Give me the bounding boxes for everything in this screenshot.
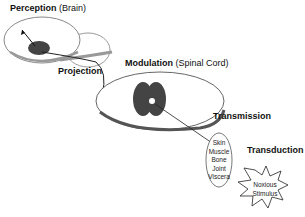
transmission-label: Transmission [213,112,271,121]
projection-label: Projection [58,67,102,76]
stimulus-line-1: Noxious [249,181,281,190]
stimulus-text: Noxious Stimulus [249,181,281,198]
spinal-cord-shape [96,72,224,130]
tissue-viscera: Viscera [206,173,232,182]
tissue-skin: Skin [206,139,232,148]
modulation-label: Modulation (Spinal Cord) [125,59,229,68]
brain-shape [4,17,112,67]
tissue-list: Skin Muscle Bone Joint Viscera [206,139,232,182]
stimulus-line-2: Stimulus [249,190,281,199]
tissue-joint: Joint [206,165,232,174]
transduction-label: Transduction [247,146,304,155]
tissue-muscle: Muscle [206,148,232,157]
perception-label: Perception (Brain) [10,4,86,13]
tissue-bone: Bone [206,156,232,165]
